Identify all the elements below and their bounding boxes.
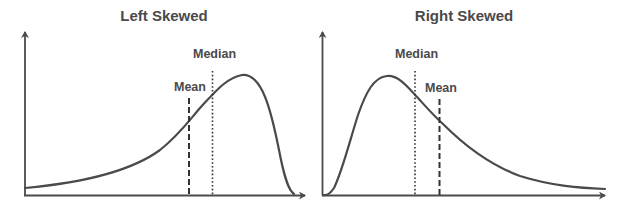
left-mean-label: Mean [174, 80, 206, 94]
right-skewed-plot [322, 32, 605, 196]
left-median-label: Median [193, 47, 236, 61]
right-median-label: Median [395, 47, 438, 61]
left-panel-title: Left Skewed [120, 7, 208, 24]
plots-canvas [0, 0, 625, 208]
left-distribution-curve [25, 75, 294, 194]
skewness-diagram: Left Skewed Median Mean Right Skewed Med… [0, 0, 625, 208]
right-mean-label: Mean [425, 81, 457, 95]
right-distribution-curve [323, 76, 605, 195]
left-skewed-plot [24, 32, 305, 196]
right-panel-title: Right Skewed [415, 7, 513, 24]
